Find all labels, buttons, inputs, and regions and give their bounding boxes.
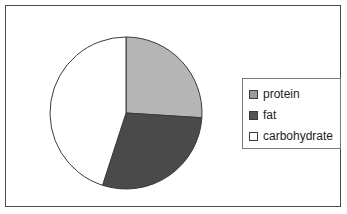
chart-screenshot: protein fat carbohydrate	[0, 0, 347, 214]
legend-item-carbohydrate: carbohydrate	[249, 126, 336, 146]
legend-swatch-protein	[249, 90, 258, 99]
legend-swatch-carbohydrate	[249, 132, 258, 141]
legend-label-protein: protein	[263, 88, 300, 101]
figure-frame: protein fat carbohydrate	[5, 5, 341, 207]
legend-label-carbohydrate: carbohydrate	[263, 130, 333, 143]
chart-legend: protein fat carbohydrate	[242, 78, 341, 149]
legend-item-fat: fat	[249, 105, 336, 125]
legend-swatch-fat	[249, 111, 258, 120]
legend-label-fat: fat	[263, 109, 276, 122]
pie-chart-svg	[49, 35, 205, 192]
pie-slice-protein	[126, 37, 202, 118]
pie-chart	[49, 35, 205, 192]
legend-item-protein: protein	[249, 84, 336, 104]
